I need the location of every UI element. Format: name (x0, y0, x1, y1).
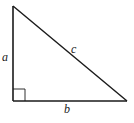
hypotenuse-c-label: c (71, 43, 76, 55)
hypotenuse-c (13, 6, 127, 101)
right-angle-marker (13, 89, 25, 101)
side-a-label: a (2, 51, 8, 63)
side-b-label: b (64, 103, 70, 115)
